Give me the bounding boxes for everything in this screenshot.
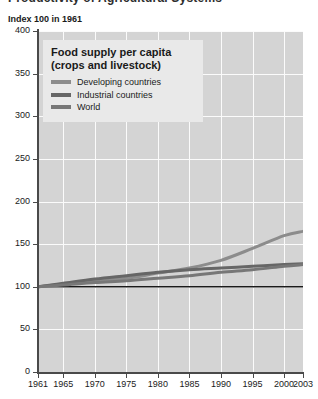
food-supply-line-chart: Food supply per capita (crops and livest… bbox=[0, 26, 318, 399]
x-axis-tick bbox=[38, 374, 39, 378]
legend-entry: World bbox=[51, 102, 195, 112]
x-axis-tick-label: 1961 bbox=[28, 379, 48, 389]
x-axis-tick bbox=[158, 374, 159, 378]
legend-entry: Developing countries bbox=[51, 77, 195, 87]
x-axis-tick-label: 2003 bbox=[293, 379, 313, 389]
y-axis-tick: 250 bbox=[33, 159, 38, 160]
x-axis-tick bbox=[63, 374, 64, 378]
y-axis-tick: 50 bbox=[33, 329, 38, 330]
y-axis-tick: 400 bbox=[33, 31, 38, 32]
legend-entry-label: Developing countries bbox=[77, 77, 161, 87]
y-axis-tick: 300 bbox=[33, 116, 38, 117]
page-heading-strip: Productivity of Agricultural Systems bbox=[0, 0, 318, 10]
legend-entry-label: World bbox=[77, 102, 100, 112]
x-axis-tick-label: 1995 bbox=[243, 379, 263, 389]
x-axis-tick-label: 1980 bbox=[148, 379, 168, 389]
legend-title: Food supply per capita (crops and livest… bbox=[51, 46, 195, 71]
legend-title-line1: Food supply per capita bbox=[51, 46, 195, 59]
y-axis-tick-label: 350 bbox=[15, 68, 30, 78]
y-axis-tick-label: 400 bbox=[15, 25, 30, 35]
legend-color-swatch bbox=[51, 93, 71, 97]
x-axis-tick-label: 1985 bbox=[179, 379, 199, 389]
x-axis-tick bbox=[253, 374, 254, 378]
y-axis-tick-label: 50 bbox=[20, 323, 30, 333]
y-axis-tick-label: 0 bbox=[25, 366, 30, 376]
y-axis-tick-label: 100 bbox=[15, 281, 30, 291]
y-axis-tick-label: 300 bbox=[15, 110, 30, 120]
x-axis-tick-label: 1965 bbox=[53, 379, 73, 389]
y-axis-tick: 200 bbox=[33, 202, 38, 203]
legend-entry-label: Industrial countries bbox=[77, 90, 153, 100]
y-axis-tick: 350 bbox=[33, 74, 38, 75]
y-axis-tick: 150 bbox=[33, 244, 38, 245]
series-line-2 bbox=[38, 265, 303, 287]
legend-color-swatch bbox=[51, 105, 71, 109]
x-axis-line bbox=[37, 372, 304, 374]
y-axis-tick: 0 bbox=[33, 372, 38, 373]
legend-color-swatch bbox=[51, 80, 71, 84]
legend-title-line2: (crops and livestock) bbox=[51, 59, 195, 72]
y-axis-tick-label: 150 bbox=[15, 238, 30, 248]
x-axis-tick bbox=[189, 374, 190, 378]
x-axis-tick bbox=[284, 374, 285, 378]
x-axis-tick bbox=[95, 374, 96, 378]
x-axis-tick-label: 1970 bbox=[85, 379, 105, 389]
x-axis-tick-label: 1990 bbox=[211, 379, 231, 389]
page-heading-text: Productivity of Agricultural Systems bbox=[8, 0, 222, 5]
x-axis-tick bbox=[221, 374, 222, 378]
y-axis-tick-label: 250 bbox=[15, 153, 30, 163]
y-axis-unit-caption: Index 100 in 1961 bbox=[8, 14, 82, 24]
y-axis-tick-label: 200 bbox=[15, 196, 30, 206]
x-axis-tick-label: 2000 bbox=[274, 379, 294, 389]
x-axis-tick bbox=[126, 374, 127, 378]
legend-entry: Industrial countries bbox=[51, 90, 195, 100]
chart-legend: Food supply per capita (crops and livest… bbox=[43, 40, 203, 122]
y-axis-tick: 100 bbox=[33, 287, 38, 288]
legend-entries: Developing countriesIndustrial countries… bbox=[51, 77, 195, 112]
x-axis-tick bbox=[303, 374, 304, 378]
x-axis-tick-label: 1975 bbox=[116, 379, 136, 389]
